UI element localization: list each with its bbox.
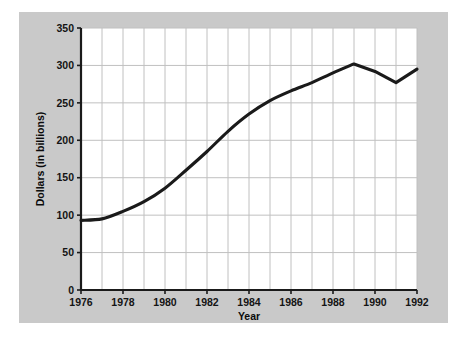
- x-tick-label: 1990: [363, 296, 387, 308]
- y-tick-label: 150: [56, 171, 74, 183]
- y-axis-ticks: 050100150200250300350: [56, 22, 81, 296]
- x-tick-label: 1976: [69, 296, 93, 308]
- figure: 0501001502002503003501976197819801982198…: [0, 0, 467, 340]
- x-tick-label: 1980: [153, 296, 177, 308]
- y-tick-label: 50: [62, 246, 74, 258]
- y-tick-label: 300: [56, 59, 74, 71]
- y-tick-label: 250: [56, 97, 74, 109]
- y-tick-label: 200: [56, 134, 74, 146]
- x-tick-label: 1978: [111, 296, 135, 308]
- x-axis-ticks: 197619781980198219841986198819901992: [69, 290, 429, 308]
- x-tick-label: 1988: [321, 296, 345, 308]
- x-axis-title: Year: [238, 310, 260, 322]
- x-tick-label: 1984: [237, 296, 261, 308]
- x-tick-label: 1982: [195, 296, 219, 308]
- x-tick-label: 1992: [405, 296, 429, 308]
- x-tick-label: 1986: [279, 296, 303, 308]
- y-axis-title: Dollars (in billions): [34, 112, 46, 207]
- y-tick-label: 100: [56, 209, 74, 221]
- y-tick-label: 0: [68, 284, 74, 296]
- y-tick-label: 350: [56, 22, 74, 34]
- line-chart: 0501001502002503003501976197819801982198…: [0, 0, 467, 340]
